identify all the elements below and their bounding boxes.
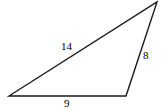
triangle-shape bbox=[0, 0, 162, 111]
side-label-8: 8 bbox=[143, 50, 149, 61]
side-label-14: 14 bbox=[61, 41, 72, 52]
triangle-outline bbox=[9, 2, 157, 96]
triangle-figure: 14 8 9 bbox=[0, 0, 162, 111]
side-label-9: 9 bbox=[64, 98, 70, 109]
